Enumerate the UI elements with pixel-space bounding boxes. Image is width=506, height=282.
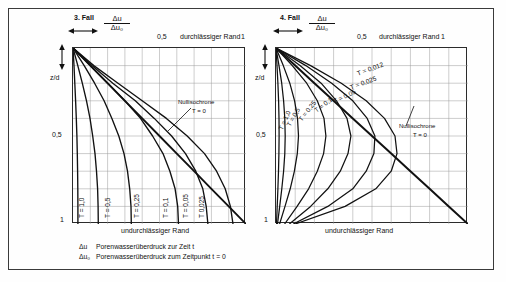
plot-area-left [72,47,245,223]
curve-label-left-1: T = 0,5 [104,198,111,218]
caption-row-1: Δu₀Porenwasserüberdruck zum Zeitpunkt t … [79,253,226,260]
panel-left: 3. Fall Δu Δu₀ 0,5 durchlässiger Rand 1 … [0,0,253,282]
nullisochrone-label-left: Nullisochrone [178,99,214,105]
ratio-label-left: Δu Δu₀ [104,15,130,32]
y-tick-end-left: 1 [60,216,64,223]
caption-text-0: Porenwasserüberdruck zur Zeit t [96,243,194,250]
horizontal-double-arrow-right-icon [273,26,305,36]
caption-text-1: Porenwasserüberdruck zum Zeitpunkt t = 0 [96,253,226,260]
plot-svg-left [73,48,246,224]
top-axis-label-right: durchlässiger Rand [379,33,439,40]
nullisochrone-leader-left [168,108,191,131]
top-tick-end-left: 1 [241,33,245,40]
figure-root: 3. Fall Δu Δu₀ 0,5 durchlässiger Rand 1 … [0,0,506,282]
plot-area-right [275,47,467,223]
curve-label-left-3: T = 0,1 [162,198,169,218]
top-tick-end-right: 1 [441,33,445,40]
case-label-left: 3. Fall [74,14,94,21]
y-axis-label-left: z/d [50,74,59,81]
y-tick-end-right: 1 [264,216,268,223]
top-tick-mid-right: 0,5 [357,33,367,40]
curve-label-left-2: T = 0,25 [133,194,140,218]
caption-row-0: ΔuPorenwasserüberdruck zur Zeit t [79,243,194,250]
top-tick-mid-left: 0,5 [157,33,167,40]
ratio-label-right: Δu Δu₀ [309,15,335,32]
curve-label-left-5: T 0,025 [198,196,205,218]
curve-label-left-4: T = 0,05 [182,194,189,218]
y-tick-mid-left: 0,5 [52,131,62,138]
ratio-denominator-left: Δu₀ [104,24,130,32]
case-label-right: 4. Fall [280,14,300,21]
top-axis-label-left: durchlässiger Rand [180,33,240,40]
nullisochrone-label-right: Nullisochrone [399,123,435,129]
y-axis-label-right: z/d [255,74,264,81]
ratio-denominator-right: Δu₀ [309,24,335,32]
caption-symbol-0: Δu [79,243,96,250]
curve-label-left-0: T = 1,0 [78,198,85,218]
vertical-double-arrow-left-icon [57,44,67,70]
bottom-axis-label-right: undurchlässiger Rand [325,227,393,234]
vertical-double-arrow-right-icon [260,44,270,70]
nullisochrone-value-left: T = 0 [192,108,206,114]
nullisochrone-value-right: T = 0 [413,132,427,138]
bottom-axis-label-left: undurchlässiger Rand [121,227,189,234]
caption-symbol-1: Δu₀ [79,253,96,260]
panel-right: 4. Fall Δu Δu₀ 0,5 durchlässiger Rand 1 … [253,0,506,282]
y-tick-mid-right: 0,5 [256,131,266,138]
horizontal-double-arrow-left-icon [68,26,100,36]
